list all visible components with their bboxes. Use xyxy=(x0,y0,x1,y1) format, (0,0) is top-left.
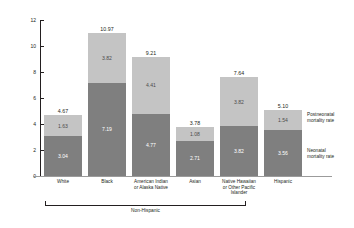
bar-segment-postneonatal-label: 1.08 xyxy=(176,131,214,137)
bar-segment-postneonatal[interactable]: 1.54 xyxy=(264,110,302,130)
bar-segment-neonatal[interactable]: 3.04 xyxy=(44,136,82,176)
bar-total-label: 10.97 xyxy=(88,26,126,32)
bar-segment-neonatal-label: 7.19 xyxy=(88,126,126,132)
y-tick-label-4: 4 xyxy=(22,122,36,127)
bar-segment-neonatal[interactable]: 7.19 xyxy=(88,83,126,176)
y-tick-label-8: 8 xyxy=(22,70,36,75)
bar-segment-neonatal[interactable]: 3.56 xyxy=(264,130,302,176)
bar-total-label: 9.21 xyxy=(132,50,170,56)
bar-segment-postneonatal-label: 1.63 xyxy=(44,123,82,129)
bar-group[interactable]: 4.671.633.04 xyxy=(44,115,82,176)
bar-group[interactable]: 7.643.823.82 xyxy=(220,77,258,176)
y-tick-label-2: 2 xyxy=(22,148,36,153)
bar-total-label: 4.67 xyxy=(44,108,82,114)
bar-segment-neonatal[interactable]: 4.77 xyxy=(132,114,170,176)
legend-item-label-line: mortality rate xyxy=(307,154,351,160)
y-tick-label-12: 12 xyxy=(22,18,36,23)
bracket-tick-right xyxy=(245,201,246,206)
bar-total-label: 5.10 xyxy=(264,103,302,109)
bracket-tick-left xyxy=(45,201,46,206)
bar-segment-postneonatal[interactable]: 4.41 xyxy=(132,57,170,114)
x-axis-label-line: or Alaska Native xyxy=(123,185,179,191)
bar-segment-postneonatal-label: 1.54 xyxy=(264,117,302,123)
x-axis-label-line: Hispanic xyxy=(255,179,311,185)
bar-group[interactable]: 9.214.414.77 xyxy=(132,57,170,176)
bar-segment-postneonatal[interactable]: 1.63 xyxy=(44,115,82,136)
bar-segment-neonatal-label: 3.56 xyxy=(264,150,302,156)
bar-segment-postneonatal-label: 3.82 xyxy=(220,99,258,105)
y-tick-label-10: 10 xyxy=(22,44,36,49)
non-hispanic-bracket-label: Non-Hispanic xyxy=(45,208,246,214)
legend-item[interactable]: Postneonatalmortality rate xyxy=(307,112,351,123)
bar-total-label: 7.64 xyxy=(220,70,258,76)
plot-area: 4.671.633.0410.973.827.199.214.414.773.7… xyxy=(41,20,306,176)
infant-mortality-chart: Infant deaths per 1,000 live births 1210… xyxy=(0,0,354,228)
bar-segment-postneonatal[interactable]: 3.82 xyxy=(88,33,126,83)
y-tick-label-6: 6 xyxy=(22,96,36,101)
bar-group[interactable]: 10.973.827.19 xyxy=(88,33,126,176)
x-axis-label-hispanic: Hispanic xyxy=(255,179,311,185)
bar-segment-postneonatal-label: 3.82 xyxy=(88,55,126,61)
x-axis-baseline xyxy=(33,176,332,177)
non-hispanic-bracket-line xyxy=(45,205,246,206)
bar-segment-postneonatal[interactable]: 1.08 xyxy=(176,127,214,141)
bar-total-label: 3.78 xyxy=(176,120,214,126)
legend-item-label: Neonatalmortality rate xyxy=(307,148,351,159)
bar-segment-neonatal[interactable]: 2.71 xyxy=(176,141,214,176)
bar-group[interactable]: 5.101.543.56 xyxy=(264,110,302,176)
bar-segment-neonatal-label: 3.82 xyxy=(220,148,258,154)
bar-segment-neonatal-label: 2.71 xyxy=(176,155,214,161)
x-axis-label-line: Islander xyxy=(211,190,267,196)
bar-segment-postneonatal-label: 4.41 xyxy=(132,82,170,88)
bar-segment-neonatal-label: 4.77 xyxy=(132,142,170,148)
legend-item-label: Postneonatalmortality rate xyxy=(307,112,351,123)
legend-item[interactable]: Neonatalmortality rate xyxy=(307,148,351,159)
legend-item-label-line: mortality rate xyxy=(307,118,351,124)
bar-segment-postneonatal[interactable]: 3.82 xyxy=(220,77,258,127)
bar-group[interactable]: 3.781.082.71 xyxy=(176,127,214,176)
bar-segment-neonatal-label: 3.04 xyxy=(44,153,82,159)
bar-segment-neonatal[interactable]: 3.82 xyxy=(220,126,258,176)
